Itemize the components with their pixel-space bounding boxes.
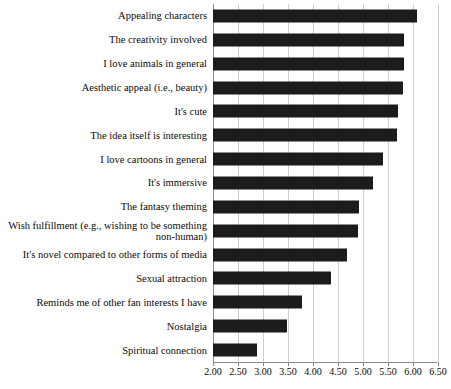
bar-row: It's novel compared to other forms of me… [0,243,444,267]
bar [213,224,358,237]
bar-row: Sexual attraction [0,267,444,291]
x-tick-mark [213,362,214,366]
x-axis-tick-labels: 2.002.503.003.504.004.505.005.506.006.50 [0,366,444,386]
category-label: I love cartoons in general [0,154,213,165]
bar-row: Aesthetic appeal (i.e., beauty) [0,76,444,100]
x-tick-mark [413,362,414,366]
bar [213,176,373,189]
category-label: Spiritual connection [0,345,213,356]
x-tick-mark [313,362,314,366]
bar-track [213,243,444,267]
bar-track [213,52,444,76]
x-tick-mark [338,362,339,366]
bar-track [213,338,444,362]
category-label: The creativity involved [0,34,213,45]
bar-rows: Appealing charactersThe creativity invol… [0,0,444,362]
bar-row: Wish fulfillment (e.g., wishing to be so… [0,219,444,243]
category-label: The fantasy theming [0,201,213,212]
x-tick-label: 6.50 [423,366,451,377]
bar-track [213,28,444,52]
bar [213,9,417,22]
category-label: Reminds me of other fan interests I have [0,297,213,308]
category-label: It's cute [0,106,213,117]
category-label: It's immersive [0,177,213,188]
bar [213,344,257,357]
category-label: I love animals in general [0,58,213,69]
x-tick-mark [288,362,289,366]
bar-track [213,99,444,123]
category-label: Aesthetic appeal (i.e., beauty) [0,82,213,93]
x-axis-line [213,362,437,363]
category-label: Nostalgia [0,321,213,332]
bar-row: It's cute [0,99,444,123]
bar-track [213,267,444,291]
bar-track [213,195,444,219]
bar-track [213,76,444,100]
bar-track [213,219,444,243]
bar [213,33,404,46]
bar-row: I love cartoons in general [0,147,444,171]
bar-row: Appealing characters [0,4,444,28]
bar-row: The creativity involved [0,28,444,52]
bar-row: Reminds me of other fan interests I have [0,290,444,314]
x-tick-mark [438,362,439,366]
bar [213,320,287,333]
bar-track [213,147,444,171]
bar [213,57,404,70]
bar-track [213,123,444,147]
bar-row: Spiritual connection [0,338,444,362]
x-tick-mark [238,362,239,366]
x-tick-mark [363,362,364,366]
bar [213,153,383,166]
category-label: Sexual attraction [0,273,213,284]
bar [213,248,347,261]
bar [213,81,403,94]
bar [213,296,302,309]
bar-track [213,290,444,314]
x-tick-mark [388,362,389,366]
bar-row: The idea itself is interesting [0,123,444,147]
bar [213,105,398,118]
bar [213,272,331,285]
category-label: Appealing characters [0,10,213,21]
bar-track [213,4,444,28]
category-label: The idea itself is interesting [0,130,213,141]
bar-track [213,171,444,195]
bar-row: I love animals in general [0,52,444,76]
category-label: It's novel compared to other forms of me… [0,249,213,260]
bar-row: Nostalgia [0,314,444,338]
bar [213,200,359,213]
bar [213,129,397,142]
bar-row: It's immersive [0,171,444,195]
category-label: Wish fulfillment (e.g., wishing to be so… [0,220,213,242]
x-tick-mark [263,362,264,366]
bar-track [213,314,444,338]
bar-row: The fantasy theming [0,195,444,219]
